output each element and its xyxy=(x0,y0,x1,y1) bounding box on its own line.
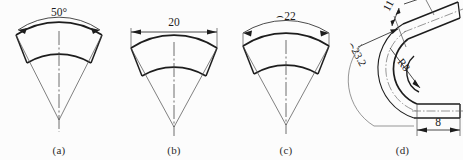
upper-arm-outer-edge xyxy=(403,2,458,24)
dimension-arrow-right xyxy=(207,30,217,35)
arc-length-dimension-text: ⌢22 xyxy=(276,10,296,22)
radial-line-left xyxy=(243,46,286,125)
chord-dimension-text: 20 xyxy=(168,16,180,28)
radial-line-right xyxy=(174,48,217,127)
radial-line-left xyxy=(131,48,174,127)
drawing-sheet: 50° (a) 20 xyxy=(0,0,463,160)
dimension-arrow-left xyxy=(131,30,141,35)
figure-a: 50° (a) xyxy=(0,0,118,160)
dim8-arrow-left xyxy=(417,128,427,133)
dim11-extension-line xyxy=(394,16,406,47)
r8-arrow xyxy=(413,80,421,89)
figure-b-canvas: 20 xyxy=(118,0,230,140)
band-edge-right xyxy=(318,46,329,74)
figure-b-caption: (b) xyxy=(118,144,230,156)
band-edge-right xyxy=(91,35,102,63)
radial-line-right xyxy=(59,35,102,120)
figure-c-canvas: ⌢22 xyxy=(230,0,342,140)
dim8-text: 8 xyxy=(435,116,441,128)
dim8-arrow-right xyxy=(450,128,460,133)
dimension-arrow-right xyxy=(320,31,329,37)
radial-line-left xyxy=(16,35,59,120)
dim11-upper-ref-line xyxy=(404,0,428,4)
upper-arm-inner-edge xyxy=(408,18,460,39)
dim11-text: 11 xyxy=(380,0,396,13)
dim11-arrow-top xyxy=(396,8,401,15)
dimension-arrow-left xyxy=(243,31,252,37)
figure-a-caption: (a) xyxy=(0,144,118,156)
dim11-arrow-bottom xyxy=(391,19,396,26)
figure-d-canvas: 11 ⌢23.2 R8 8 xyxy=(342,0,463,140)
figure-c: ⌢22 (c) xyxy=(230,0,342,160)
radial-line-right xyxy=(286,46,329,125)
figure-d-caption: (d) xyxy=(342,144,463,156)
band-edge-right xyxy=(206,48,217,76)
angle-dimension-text: 50° xyxy=(51,6,68,18)
figure-d: 11 ⌢23.2 R8 8 (d) xyxy=(342,0,463,160)
figure-b: 20 (b) xyxy=(118,0,230,160)
figure-a-canvas: 50° xyxy=(0,0,118,140)
figure-c-caption: (c) xyxy=(230,144,342,156)
band-edge-left xyxy=(243,46,254,74)
band-edge-left xyxy=(131,48,142,76)
bend-centerline-arc xyxy=(386,31,416,111)
band-edge-left xyxy=(16,35,27,63)
arc-dimension-line xyxy=(243,20,329,33)
